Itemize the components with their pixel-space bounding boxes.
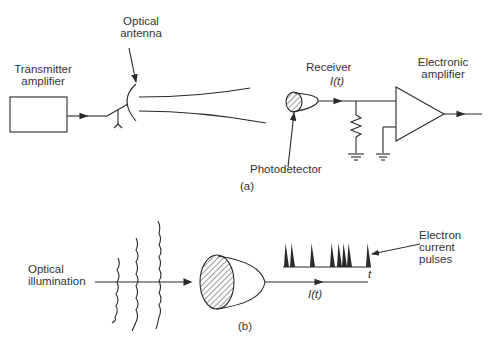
illumination-label: Optical illumination bbox=[28, 263, 86, 287]
arrow-icon bbox=[184, 279, 191, 285]
arrow-icon bbox=[80, 114, 87, 119]
wavefront-1 bbox=[112, 258, 119, 323]
receiver-label: Receiver bbox=[306, 61, 351, 73]
antenna-pointer bbox=[129, 48, 136, 82]
antenna-ground-symbol bbox=[114, 124, 122, 128]
pulses-label-line1: Electron bbox=[419, 229, 461, 241]
beam-lower-edge bbox=[139, 111, 266, 123]
resistor bbox=[351, 115, 361, 137]
wavefront-3 bbox=[156, 221, 161, 329]
electron-current-pulses bbox=[284, 243, 371, 267]
transmitter-label-line2: amplifier bbox=[8, 75, 78, 87]
arrow-icon bbox=[315, 280, 322, 285]
photodetector-hatched-face-large bbox=[200, 255, 234, 309]
caption-b: (b) bbox=[238, 320, 252, 332]
illumination-label-line2: illumination bbox=[28, 275, 86, 287]
optical-antenna-dish bbox=[127, 84, 136, 121]
pulses-label: Electron current pulses bbox=[419, 229, 461, 265]
beam-upper-edge bbox=[139, 88, 250, 97]
photodetector-label: Photodetector bbox=[250, 163, 322, 175]
electronic-amplifier-triangle bbox=[396, 87, 444, 141]
photodetector-pointer bbox=[288, 113, 294, 167]
pulses-pointer bbox=[372, 244, 420, 254]
illumination-label-line1: Optical bbox=[28, 263, 86, 275]
pulses-label-line2: current bbox=[419, 241, 461, 253]
amplifier-label: Electronic amplifier bbox=[408, 56, 478, 80]
pulses-label-line3: pulses bbox=[419, 253, 461, 265]
arrow-icon bbox=[334, 99, 341, 104]
transmitter-label: Transmitter amplifier bbox=[8, 63, 78, 87]
antenna-label-line2: antenna bbox=[108, 27, 174, 39]
receiver-signal-label: I(t) bbox=[330, 75, 344, 87]
antenna-label: Optical antenna bbox=[108, 15, 174, 39]
amplifier-label-line1: Electronic bbox=[408, 56, 478, 68]
transmitter-label-line1: Transmitter bbox=[8, 63, 78, 75]
wavefront-2 bbox=[132, 238, 138, 331]
diagram-canvas bbox=[0, 0, 499, 354]
transmitter-amplifier-box bbox=[10, 97, 67, 132]
caption-a: (a) bbox=[240, 180, 254, 192]
arrow-icon bbox=[457, 112, 464, 117]
output-signal-label: I(t) bbox=[308, 288, 322, 300]
amplifier-label-line2: amplifier bbox=[408, 68, 478, 80]
antenna-label-line1: Optical bbox=[108, 15, 174, 27]
photodetector-hatched-face bbox=[286, 92, 302, 112]
time-axis-label: t bbox=[368, 268, 371, 280]
